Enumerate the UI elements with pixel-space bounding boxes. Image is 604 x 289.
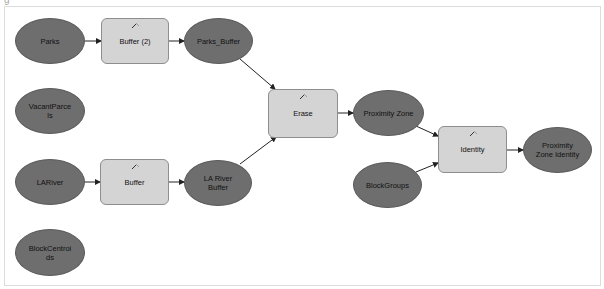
process-node-buffer[interactable]: Buffer [100, 159, 169, 205]
node-label: Proximity Zone [359, 109, 417, 118]
process-node-erase[interactable]: Erase [268, 89, 338, 138]
node-label: Parks_Buffer [193, 37, 244, 46]
edge-layer [0, 0, 604, 289]
hammer-icon [131, 163, 140, 170]
data-node-parks[interactable]: Parks [15, 18, 85, 64]
node-label: LARiver [33, 178, 68, 187]
node-label: Proximity Zone Identity [532, 141, 583, 159]
edge-parks-buffer-erase [240, 59, 275, 89]
node-label: Buffer [121, 178, 149, 187]
node-label: LA River Buffer [200, 174, 236, 192]
node-label: Buffer (2) [115, 37, 154, 46]
process-node-buffer2[interactable]: Buffer (2) [101, 18, 169, 64]
data-node-la-river-buffer[interactable]: LA River Buffer [184, 160, 252, 206]
node-label: BlockCentroi ds [25, 244, 76, 262]
node-label: Erase [289, 109, 317, 118]
edge-blockgroups-identity [416, 163, 438, 172]
node-label: VacantParce ls [25, 102, 75, 120]
node-label: Identity [456, 145, 488, 154]
data-node-block-groups[interactable]: BlockGroups [353, 162, 422, 208]
data-node-proximity-zone[interactable]: Proximity Zone [353, 90, 424, 136]
node-label: BlockGroups [362, 181, 413, 190]
node-label: Parks [36, 37, 63, 46]
hammer-icon [299, 93, 308, 100]
data-node-parks-buffer[interactable]: Parks_Buffer [184, 18, 253, 64]
edge-lariver-buffer-erase [240, 137, 276, 164]
process-node-identity[interactable]: Identity [438, 126, 507, 173]
edge-proximity-zone-identity [416, 126, 438, 136]
data-node-proximity-zone-identity[interactable]: Proximity Zone Identity [523, 127, 592, 173]
data-node-vacant-parcels[interactable]: VacantParce ls [15, 88, 85, 134]
data-node-block-centroids[interactable]: BlockCentroi ds [15, 229, 85, 276]
data-node-lariver[interactable]: LARiver [15, 159, 85, 205]
hammer-icon [469, 130, 478, 137]
hammer-icon [131, 22, 140, 29]
